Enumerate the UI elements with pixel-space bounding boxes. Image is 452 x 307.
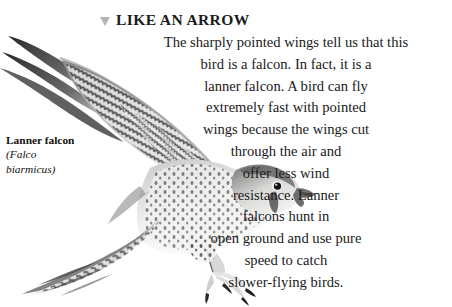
body-line: falcons hunt in [120,206,452,228]
body-paragraph: The sharply pointed wings tell us that t… [120,32,452,294]
body-line: wings because the wings cut [120,119,452,141]
caption-scientific-name-line2: biarmicus) [6,162,110,177]
figure-caption: Lanner falcon (Falco biarmicus) [6,133,110,176]
body-line: bird is a falcon. In fact, it is a [120,54,452,76]
body-line: extremely fast with pointed [120,97,452,119]
triangle-down-icon [100,17,110,26]
body-line: The sharply pointed wings tell us that t… [120,32,452,54]
section-heading-text: LIKE AN ARROW [116,11,250,29]
caption-common-name: Lanner falcon [6,133,110,147]
body-line: lanner falcon. A bird can fly [120,76,452,98]
upper-wing-primaries [0,36,124,142]
caption-scientific-name-line1: (Falco [6,147,110,162]
body-line: resistance. Lanner [120,185,452,207]
body-line: offer less wind [120,163,452,185]
book-page-spread: LIKE AN ARROW The sharply pointed wings … [0,0,452,307]
section-heading: LIKE AN ARROW [100,11,250,29]
body-line: speed to catch [120,250,452,272]
body-line: open ground and use pure [120,228,452,250]
body-line: slower-flying birds. [120,272,452,294]
body-line: through the air and [120,141,452,163]
